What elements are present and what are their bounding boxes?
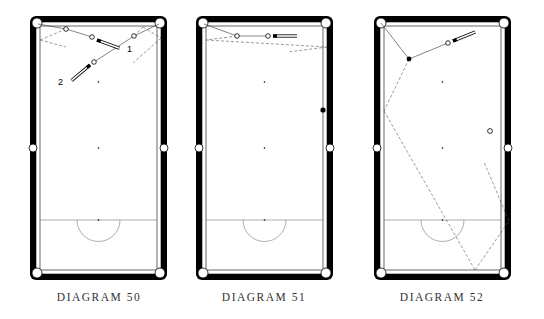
- table-diagram-50: [29, 16, 168, 280]
- table-diagram-52: [373, 16, 512, 280]
- table-diagram-51: [195, 16, 334, 280]
- caption-diagram-52: DIAGRAM 52: [372, 291, 512, 303]
- shot-label-2: 2: [58, 77, 63, 87]
- caption-diagram-50: DIAGRAM 50: [29, 291, 169, 303]
- shot-label-1: 1: [127, 44, 132, 54]
- diagrams-canvas: 1 2: [0, 0, 544, 319]
- caption-diagram-51: DIAGRAM 51: [194, 291, 334, 303]
